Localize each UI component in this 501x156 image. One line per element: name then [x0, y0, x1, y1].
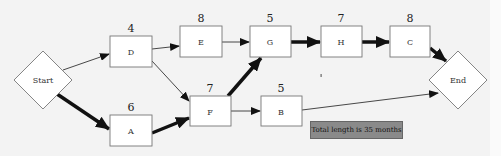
node-h-duration: 7 — [338, 12, 345, 25]
node-f: F 7 — [190, 82, 231, 126]
artifact-mark — [321, 74, 322, 77]
edge-a-f — [152, 118, 189, 133]
node-g: G 5 — [250, 12, 291, 57]
node-e: E 8 — [180, 12, 222, 57]
node-h-label: H — [338, 38, 345, 47]
diagram-canvas: Start End D 4 A 6 E 8 F 7 — [0, 0, 501, 156]
node-f-label: F — [207, 108, 213, 117]
node-d: D 4 — [110, 22, 152, 67]
node-end-label: End — [450, 76, 466, 85]
edge-start-a — [57, 94, 109, 129]
node-end: End — [429, 51, 487, 109]
node-c-label: C — [407, 38, 413, 47]
node-c-duration: 8 — [407, 12, 414, 25]
edge-d-e — [152, 46, 179, 49]
node-start-label: Start — [33, 76, 54, 85]
edge-start-d — [63, 54, 109, 70]
node-b-duration: 5 — [278, 82, 285, 95]
node-h: H 7 — [321, 12, 362, 57]
node-e-duration: 8 — [198, 12, 205, 25]
node-e-label: E — [198, 38, 204, 47]
node-c: C 8 — [390, 12, 430, 57]
node-g-duration: 5 — [267, 12, 274, 25]
node-d-label: D — [128, 48, 134, 57]
network-diagram: Start End D 4 A 6 E 8 F 7 — [0, 0, 501, 156]
edge-b-end — [302, 93, 438, 110]
node-a-duration: 6 — [128, 101, 135, 114]
edge-d-f — [152, 61, 189, 101]
node-b-label: B — [278, 108, 284, 117]
node-f-duration: 7 — [207, 82, 214, 95]
node-a: A 6 — [110, 101, 152, 146]
total-length-label: Total length is 35 months — [310, 121, 403, 139]
edge-f-g — [228, 58, 261, 96]
node-d-duration: 4 — [128, 22, 135, 35]
node-g-label: G — [267, 38, 273, 47]
edge-c-end — [430, 48, 446, 61]
node-b: B 5 — [261, 82, 302, 126]
node-a-label: A — [127, 127, 134, 136]
